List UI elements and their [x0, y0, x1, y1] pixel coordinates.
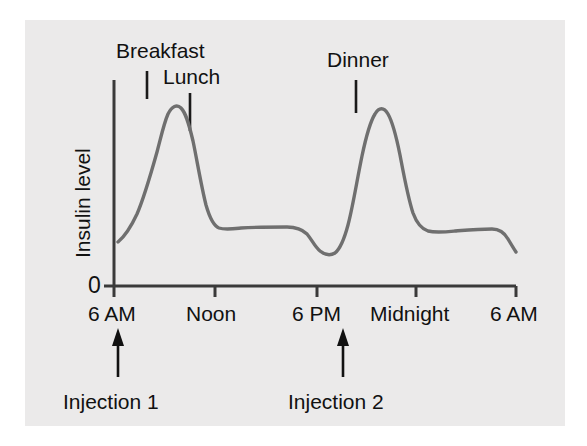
x-tick-label-6am-next: 6 AM	[490, 303, 538, 324]
injection-1-arrow-icon	[112, 328, 124, 377]
x-tick-label-noon: Noon	[186, 303, 236, 324]
insulin-level-figure: Insulin level 0 Breakfast Lunch Dinner 6…	[0, 0, 587, 446]
injection-label-1: Injection 1	[63, 391, 159, 412]
x-tick-label-6am-morning: 6 AM	[88, 303, 136, 324]
meal-label-dinner: Dinner	[327, 49, 389, 70]
meal-label-lunch: Lunch	[163, 66, 220, 87]
y-axis-zero-label: 0	[88, 274, 101, 297]
meal-label-breakfast: Breakfast	[116, 40, 205, 61]
insulin-level-curve	[118, 106, 516, 255]
x-tick-label-midnight: Midnight	[370, 303, 449, 324]
y-axis-title: Insulin level	[72, 148, 93, 258]
x-tick-label-6pm: 6 PM	[292, 303, 341, 324]
injection-label-2: Injection 2	[288, 391, 384, 412]
injection-2-arrow-icon	[337, 328, 349, 377]
